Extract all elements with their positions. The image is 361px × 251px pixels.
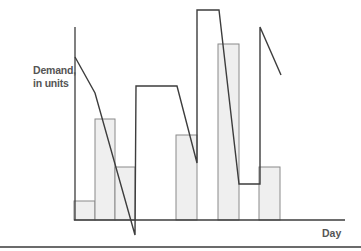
demand-bar: [176, 135, 197, 220]
x-axis-label: Day: [322, 227, 341, 239]
y-axis-label-line1: Demand,: [33, 64, 76, 77]
demand-bar: [259, 167, 280, 220]
demand-bar: [218, 44, 239, 220]
bottom-rule: [0, 246, 361, 248]
y-axis-label-line2: in units: [33, 77, 76, 90]
demand-bar: [74, 201, 95, 220]
demand-bars: [74, 44, 280, 220]
demand-bar: [95, 119, 115, 220]
y-axis-label: Demand, in units: [33, 64, 76, 90]
demand-chart: [0, 0, 361, 251]
